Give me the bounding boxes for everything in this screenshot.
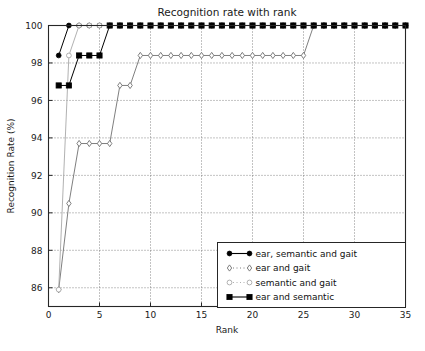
y-tick-label: 90	[31, 208, 43, 218]
marker-open-circle	[247, 280, 252, 285]
marker-filled-circle	[56, 53, 61, 58]
y-tick-label: 96	[31, 96, 43, 106]
figure-container: 8688909294969810005101520253035Recogniti…	[0, 0, 425, 351]
y-tick-label: 94	[31, 133, 43, 143]
x-tick-label: 5	[97, 310, 103, 320]
y-tick-label: 88	[31, 246, 43, 256]
y-axis-label: Recognition Rate (%)	[6, 119, 16, 214]
x-tick-label: 20	[247, 310, 259, 320]
marker-open-circle	[67, 53, 72, 58]
marker-filled-square	[247, 294, 252, 299]
marker-open-circle	[56, 287, 61, 292]
chart-title: Recognition rate with rank	[158, 6, 298, 18]
x-tick-label: 10	[145, 310, 157, 320]
legend-label: ear and gait	[256, 263, 311, 273]
y-tick-label: 92	[31, 171, 42, 181]
x-tick-label: 0	[46, 310, 52, 320]
y-tick-label: 98	[31, 58, 43, 68]
legend-label: ear, semantic and gait	[256, 249, 358, 259]
recognition-rate-chart: 8688909294969810005101520253035Recogniti…	[0, 0, 425, 351]
marker-filled-circle	[227, 251, 232, 256]
x-tick-label: 30	[349, 310, 361, 320]
x-tick-label: 15	[196, 310, 207, 320]
marker-filled-square	[66, 83, 71, 88]
marker-filled-square	[87, 53, 92, 58]
marker-filled-square	[227, 294, 232, 299]
chart-legend: ear, semantic and gaitear and gaitsemant…	[218, 243, 406, 308]
marker-filled-square	[77, 53, 82, 58]
y-tick-label: 86	[31, 283, 43, 293]
x-axis-label: Rank	[216, 325, 239, 335]
legend-label: ear and semantic	[256, 292, 335, 302]
marker-filled-square	[56, 83, 61, 88]
legend-label: semantic and gait	[256, 278, 338, 288]
marker-filled-circle	[247, 251, 252, 256]
y-tick-label: 100	[25, 21, 42, 31]
marker-open-circle	[227, 280, 232, 285]
marker-filled-square	[97, 53, 102, 58]
x-tick-label: 25	[298, 310, 309, 320]
x-tick-label: 35	[400, 310, 411, 320]
